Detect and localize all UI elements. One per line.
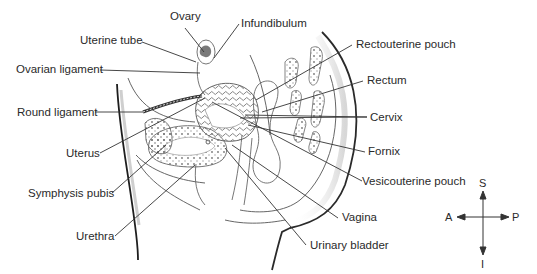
label-rectouterine-pouch: Rectouterine pouch [356, 38, 456, 51]
label-urinary-bladder: Urinary bladder [310, 239, 389, 252]
label-vesicouterine-pouch: Vesicouterine pouch [362, 175, 466, 188]
rectum [253, 81, 280, 183]
label-uterus: Uterus [66, 147, 100, 160]
label-urethra: Urethra [76, 230, 114, 243]
compass-superior: S [479, 177, 486, 189]
compass-posterior: P [512, 211, 519, 223]
arrow-right-icon [501, 214, 509, 220]
label-infundibulum: Infundibulum [241, 17, 307, 30]
label-rectum: Rectum [367, 74, 407, 87]
arrow-down-icon [480, 247, 486, 255]
compass-anterior: A [445, 211, 452, 223]
label-cervix: Cervix [370, 111, 403, 124]
vagina [232, 135, 252, 205]
pelvis-diagram: Ovary Infundibulum Uterine tube Ovarian … [0, 0, 537, 274]
label-vagina: Vagina [342, 211, 377, 224]
label-fornix: Fornix [368, 145, 400, 158]
urethra [195, 164, 205, 205]
sacrum [285, 47, 324, 154]
compass-inferior: I [481, 258, 484, 270]
label-uterine-tube: Uterine tube [80, 34, 143, 47]
label-ovary: Ovary [170, 10, 201, 23]
arrow-left-icon [457, 214, 465, 220]
label-round-ligament: Round ligament [17, 106, 98, 119]
orientation-compass [457, 191, 509, 255]
label-symphysis-pubis: Symphysis pubis [28, 187, 114, 200]
arrow-up-icon [480, 191, 486, 199]
label-ovarian-ligament: Ovarian ligament [16, 63, 103, 76]
